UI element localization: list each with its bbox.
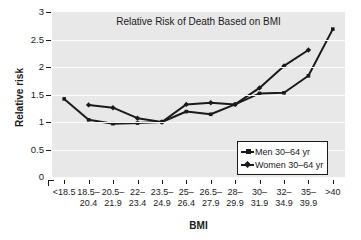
x-tick-label: >40 <box>310 187 356 198</box>
y-tick-mark <box>46 67 51 68</box>
y-tick-mark <box>46 122 51 123</box>
legend-label-men: Men 30–64 yr <box>255 147 310 157</box>
x-tick-mark <box>89 180 90 184</box>
legend-label-women: Women 30–64 yr <box>255 160 323 170</box>
x-tick-mark <box>138 180 139 184</box>
data-point-square <box>331 27 335 31</box>
y-tick-mark <box>46 150 51 151</box>
y-tick-label: 1 <box>16 117 44 127</box>
gridline <box>52 95 345 96</box>
gridline <box>52 67 345 68</box>
y-tick-label: 0 <box>16 172 44 182</box>
data-point-diamond <box>86 102 91 107</box>
chart-legend: Men 30–64 yr Women 30–64 yr <box>237 141 328 175</box>
y-tick-mark <box>46 12 51 13</box>
series-line <box>64 29 333 124</box>
x-tick-mark <box>260 180 261 184</box>
legend-item-men: Men 30–64 yr <box>241 145 323 158</box>
y-tick-mark <box>46 40 51 41</box>
y-axis-tick-labels: 00.511.522.53 <box>16 0 44 190</box>
data-point-square <box>307 74 311 78</box>
x-axis-title: BMI <box>52 220 345 231</box>
x-tick-mark <box>162 180 163 184</box>
y-tick-label: 2.5 <box>16 35 44 45</box>
axis-corner-bracket <box>48 180 54 186</box>
y-tick-mark <box>46 95 51 96</box>
x-tick-mark <box>284 180 285 184</box>
y-tick-label: 0.5 <box>16 145 44 155</box>
data-point-square <box>62 97 66 101</box>
data-point-square <box>185 110 189 114</box>
y-tick-label: 1.5 <box>16 90 44 100</box>
x-tick-mark <box>64 180 65 184</box>
gridline <box>52 122 345 123</box>
data-point-square <box>209 113 213 117</box>
x-tick-mark <box>186 180 187 184</box>
diamond-marker-icon <box>241 160 254 170</box>
gridline <box>52 40 345 41</box>
x-tick-mark <box>333 180 334 184</box>
series-line <box>89 50 309 122</box>
relative-risk-chart: Relative risk 00.511.522.53 Relative Ris… <box>0 0 361 240</box>
gridline <box>52 177 345 178</box>
x-tick-mark <box>113 180 114 184</box>
square-marker-icon <box>241 147 254 157</box>
data-point-diamond <box>208 100 213 105</box>
y-tick-label: 3 <box>16 7 44 17</box>
x-tick-mark <box>308 180 309 184</box>
x-tick-mark <box>235 180 236 184</box>
x-tick-mark <box>211 180 212 184</box>
y-tick-label: 2 <box>16 62 44 72</box>
legend-item-women: Women 30–64 yr <box>241 158 323 171</box>
